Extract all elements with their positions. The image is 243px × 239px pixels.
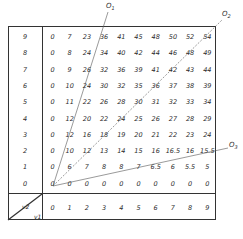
ray-o2: [53, 20, 222, 186]
ray-label-o3: O3: [229, 141, 238, 150]
corner-diagonal: [8, 194, 42, 220]
ray-o3: [53, 148, 228, 186]
ray-o1: [53, 12, 108, 186]
ray-label-o2: O2: [222, 10, 231, 19]
ray-label-o1: O1: [106, 2, 115, 11]
rays-overlay: [0, 0, 243, 239]
